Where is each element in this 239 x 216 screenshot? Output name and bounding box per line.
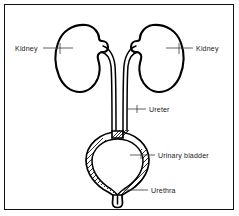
kidney-right [131,25,184,92]
ureter [101,46,138,131]
ureter-right-outer [127,52,138,131]
label-urinary-bladder: Urinary bladder [158,152,209,160]
kidney-right-outline [131,25,184,92]
ureter-left-outer [101,52,112,131]
urethra [113,195,123,208]
label-ureter: Ureter [149,106,170,114]
label-urethra: Urethra [151,187,176,195]
kidney-left-outline [55,25,108,92]
urinary-bladder [78,114,160,205]
kidney-left [55,25,108,92]
figure-root: Kidney Kidney Ureter Urinary bladder Ure… [0,0,239,216]
label-kidney-right: Kidney [196,45,219,53]
urinary-system-diagram: Kidney Kidney Ureter Urinary bladder Ure… [0,0,239,216]
label-kidney-left: Kidney [15,45,38,53]
